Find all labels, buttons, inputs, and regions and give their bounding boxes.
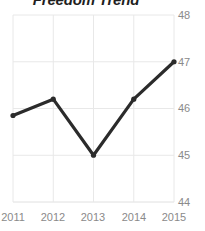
x-axis-tick-label: 2012	[31, 211, 75, 223]
data-point-marker	[131, 97, 136, 102]
x-axis-tick-label: 2015	[152, 211, 196, 223]
chart-page: Freedom Trend 48 47 46 45 44 2011 2	[0, 0, 205, 231]
y-axis-tick-label: 48	[178, 9, 204, 21]
y-axis-tick-label: 44	[178, 196, 204, 208]
chart-title: Freedom Trend	[0, 0, 172, 8]
line-chart-svg	[13, 15, 174, 202]
y-axis-tick-label: 46	[178, 102, 204, 114]
data-point-marker	[171, 59, 176, 64]
y-axis-tick-label: 45	[178, 149, 204, 161]
x-axis-tick-label: 2014	[112, 211, 156, 223]
x-axis-tick-label: 2013	[71, 211, 115, 223]
data-point-marker	[51, 97, 56, 102]
x-axis-tick-label: 2011	[0, 211, 35, 223]
data-point-marker	[91, 153, 96, 158]
data-point-marker	[10, 113, 15, 118]
plot-area	[13, 15, 174, 202]
y-axis-tick-label: 47	[178, 56, 204, 68]
